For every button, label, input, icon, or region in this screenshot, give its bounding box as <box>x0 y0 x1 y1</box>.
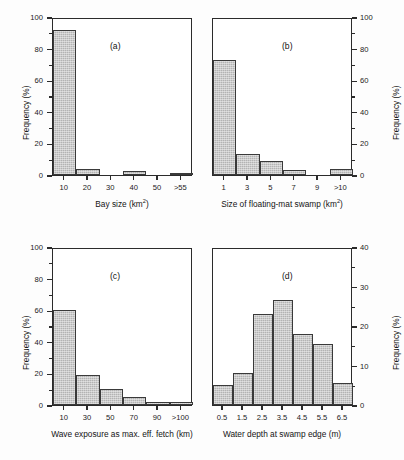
x-tick <box>301 406 302 410</box>
y-axis-title: Frequency (%) <box>392 316 400 370</box>
y-tick <box>352 175 357 176</box>
y-axis-title: Frequency (%) <box>22 86 30 140</box>
y-tick-label: 60 <box>35 307 43 315</box>
x-tick <box>341 406 342 410</box>
bar-40 <box>123 171 146 175</box>
x-tick <box>246 176 247 180</box>
bar-2.5 <box>253 314 273 405</box>
y-tick-minor <box>49 263 52 264</box>
panel-tag: (c) <box>110 272 120 281</box>
x-tick <box>63 176 64 180</box>
bar->100 <box>170 402 193 405</box>
x-tick <box>180 406 181 410</box>
bar-6.5 <box>333 383 353 405</box>
bar->10 <box>330 169 353 175</box>
bar-90 <box>146 402 169 405</box>
bar-70 <box>123 397 146 405</box>
y-axis-title: Frequency (%) <box>392 86 400 140</box>
y-tick <box>47 342 52 343</box>
x-tick <box>110 176 111 180</box>
bar-5.5 <box>313 344 333 405</box>
bar-10 <box>53 30 76 175</box>
bar-50 <box>100 389 123 405</box>
y-tick <box>352 287 357 288</box>
plot-frame-c <box>52 248 192 406</box>
panel-tag: (b) <box>282 42 293 51</box>
x-tick <box>281 406 282 410</box>
y-tick <box>47 405 52 406</box>
y-tick-label: 0 <box>360 402 364 410</box>
x-tick <box>293 176 294 180</box>
y-tick <box>352 326 357 327</box>
x-tick <box>221 406 222 410</box>
y-axis-title: Frequency (%) <box>22 316 30 370</box>
plot-frame-a <box>52 18 192 176</box>
y-tick <box>352 247 357 248</box>
y-tick-label: 80 <box>35 276 43 284</box>
y-tick-label: 20 <box>35 370 43 378</box>
y-tick <box>47 17 52 18</box>
x-axis-title: Water depth at swamp edge (m) <box>206 430 358 438</box>
y-tick-label: 20 <box>35 140 43 148</box>
panel-tag: (d) <box>282 272 293 281</box>
y-tick-minor <box>49 326 52 327</box>
y-tick-label: 0 <box>39 402 43 410</box>
panel-tag: (a) <box>110 42 121 51</box>
y-tick <box>47 81 52 82</box>
x-tick <box>156 406 157 410</box>
y-tick-minor <box>352 33 355 34</box>
y-tick-minor <box>49 96 52 97</box>
y-tick-label: 40 <box>360 109 368 117</box>
y-tick-label: 80 <box>35 46 43 54</box>
x-tick <box>316 176 317 180</box>
bar-7 <box>283 170 306 175</box>
y-tick-minor <box>352 96 355 97</box>
y-tick-label: 20 <box>360 323 368 331</box>
x-tick <box>133 176 134 180</box>
bar-1.5 <box>233 373 253 405</box>
plot-area <box>53 249 191 405</box>
y-tick <box>352 81 357 82</box>
y-tick-label: 40 <box>35 339 43 347</box>
y-tick-label: 60 <box>360 77 368 85</box>
y-tick-minor <box>49 160 52 161</box>
y-tick-label: 10 <box>360 363 368 371</box>
x-tick <box>270 176 271 180</box>
y-tick-minor <box>49 65 52 66</box>
bar-5 <box>260 161 283 175</box>
x-tick <box>86 406 87 410</box>
y-tick <box>47 247 52 248</box>
bar-0.5 <box>213 385 233 405</box>
y-tick-label: 30 <box>360 284 368 292</box>
bar-3 <box>236 154 259 175</box>
x-tick <box>340 176 341 180</box>
x-tick <box>110 406 111 410</box>
x-tick <box>86 176 87 180</box>
y-tick-label: 100 <box>360 14 373 22</box>
y-tick <box>352 112 357 113</box>
x-tick-label: 6.5 <box>328 414 356 422</box>
y-tick <box>352 144 357 145</box>
bar-30 <box>76 375 99 405</box>
y-tick <box>47 112 52 113</box>
y-tick <box>352 49 357 50</box>
y-tick-label: 100 <box>30 14 43 22</box>
bar-20 <box>76 169 99 175</box>
y-tick <box>352 405 357 406</box>
y-tick-label: 0 <box>360 172 364 180</box>
y-tick <box>47 175 52 176</box>
y-tick <box>47 279 52 280</box>
plot-area <box>53 19 191 175</box>
bar-10 <box>53 310 76 405</box>
x-tick <box>133 406 134 410</box>
y-tick-label: 100 <box>30 244 43 252</box>
x-tick <box>180 176 181 180</box>
y-tick-minor <box>352 386 355 387</box>
x-tick-label: >100 <box>166 414 194 422</box>
x-axis-title: Wave exposure as max. eff. fetch (km) <box>44 430 200 438</box>
bar-4.5 <box>293 334 313 405</box>
x-tick <box>321 406 322 410</box>
y-tick-minor <box>49 295 52 296</box>
y-tick <box>352 366 357 367</box>
y-tick-label: 40 <box>360 244 368 252</box>
